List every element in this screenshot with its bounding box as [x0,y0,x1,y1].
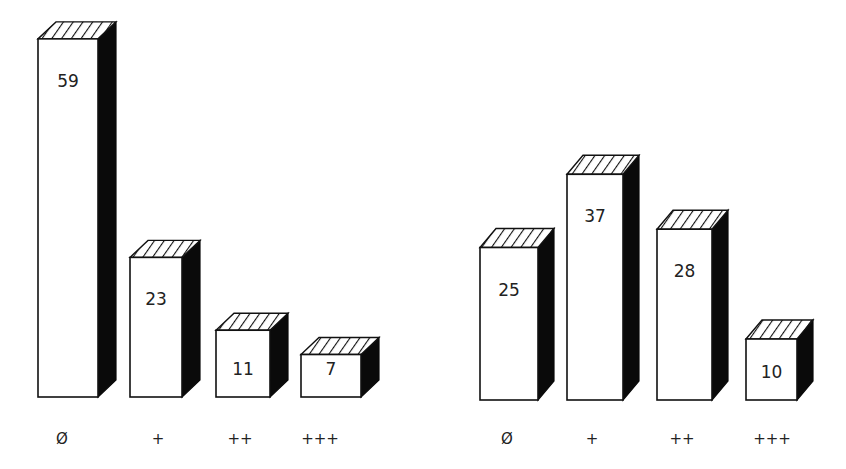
bar-front-face [130,257,182,397]
bar-side-face [712,210,728,400]
left-bar-chart: 59Ø23+11++7+++ [38,22,379,448]
bar-value-label: 23 [145,289,167,309]
bar-value-label: 10 [761,362,783,382]
bar-side-face [623,155,639,400]
bar-value-label: 7 [326,359,337,379]
bar-value-label: 25 [498,280,520,300]
bar-front-face [38,39,98,397]
category-label: ++ [227,430,252,448]
bar-3: 28 [657,210,728,400]
bar-1: 25 [480,229,554,401]
bar-value-label: 11 [232,359,254,379]
bar-1: 59 [38,22,116,397]
right-bar-chart: 25Ø37+28++10+++ [480,155,813,448]
bar-value-label: 28 [674,261,696,281]
bar-side-face [182,240,200,397]
bar-4: 10 [746,320,813,400]
category-label: Ø [56,430,68,448]
bar-3: 11 [216,313,288,397]
bar-front-face [480,248,538,401]
bar-side-face [98,22,116,397]
category-label: + [586,430,599,448]
bar-value-label: 37 [584,206,606,226]
bar-4: 7 [301,338,379,397]
bar-2: 23 [130,240,200,397]
category-label: Ø [501,430,513,448]
bar-front-face [657,229,712,400]
chart-canvas: 59Ø23+11++7+++ 25Ø37+28++10+++ [0,0,846,469]
category-label: ++ [669,430,694,448]
bar-2: 37 [567,155,639,400]
bar-value-label: 59 [57,71,79,91]
category-label: +++ [753,430,791,448]
bar-side-face [538,229,554,401]
category-label: +++ [301,430,339,448]
category-label: + [152,430,165,448]
